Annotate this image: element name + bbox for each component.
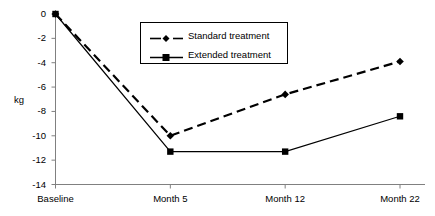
data-point-marker [282,148,288,154]
legend-item-extended-treatment: Extended treatment [150,49,271,60]
x-tick-label: Month 5 [130,194,210,204]
chart-legend: Standard treatment Extended treatment [140,22,288,64]
y-tick-label: -8 [0,106,46,116]
legend-label-extended-treatment: Extended treatment [188,49,271,60]
y-axis-title: kg [14,95,24,105]
data-point-marker [281,91,289,99]
x-axis-ticks [56,185,401,189]
line-chart: 0-2-4-6-8-10-12-14 BaselineMonth 5Month … [0,0,435,216]
y-tick-label: -2 [0,33,46,43]
data-point-marker [397,113,403,119]
legend-marker-square-solid-icon [150,49,184,60]
y-axis-ticks [52,14,56,185]
legend-item-standard-treatment: Standard treatment [150,30,269,41]
x-tick-label: Month 22 [360,194,435,204]
y-tick-label: 0 [0,9,46,19]
data-point-marker [52,11,58,17]
data-point-marker [167,148,173,154]
x-tick-label: Month 12 [245,194,325,204]
y-tick-label: -14 [0,180,46,190]
y-tick-label: -4 [0,58,46,68]
y-tick-label: -6 [0,82,46,92]
y-tick-label: -10 [0,131,46,141]
x-tick-label: Baseline [16,194,96,204]
data-point-marker [167,132,175,140]
data-point-marker [396,58,404,66]
y-tick-label: -12 [0,155,46,165]
legend-marker-diamond-dashed-icon [150,30,184,41]
legend-label-standard-treatment: Standard treatment [188,30,269,41]
